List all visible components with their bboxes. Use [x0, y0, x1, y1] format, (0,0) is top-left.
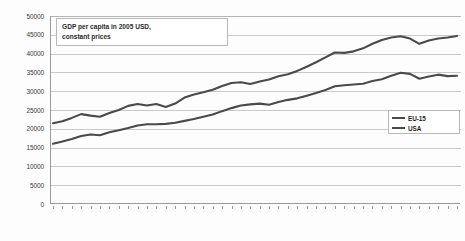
y-axis-tick-label: 30000	[0, 88, 44, 95]
x-axis-tick-mark	[316, 206, 317, 209]
x-axis-tick-mark	[81, 206, 82, 209]
y-axis-tick-label: 15000	[0, 144, 44, 151]
x-axis-tick-mark	[335, 206, 336, 209]
x-axis-tick-mark	[232, 206, 233, 209]
x-axis-tick-mark	[72, 206, 73, 209]
legend-item-usa[interactable]: USA	[392, 123, 456, 133]
x-axis-tick-mark	[91, 206, 92, 209]
y-axis-tick-label: 20000	[0, 125, 44, 132]
x-axis-tick-mark	[419, 206, 420, 209]
x-axis-tick-mark	[62, 206, 63, 209]
legend-swatch-icon-usa	[392, 127, 405, 130]
legend-swatch-icon-eu-15	[392, 117, 405, 120]
x-axis-tick-mark	[307, 206, 308, 209]
legend-label-usa: USA	[408, 125, 421, 132]
y-axis-tick-label: 0	[0, 201, 44, 208]
x-axis-tick-mark	[297, 206, 298, 209]
legend-label-eu-15: EU-15	[408, 115, 426, 122]
chart-title-line-2: constant prices	[62, 32, 222, 42]
y-axis-tick-label: 45000	[0, 31, 44, 38]
x-axis-tick-mark	[429, 206, 430, 209]
x-axis-tick-mark	[372, 206, 373, 209]
x-axis-tick-mark	[222, 206, 223, 209]
x-axis-tick-mark	[448, 206, 449, 209]
x-axis-tick-mark	[213, 206, 214, 209]
x-axis-tick-mark	[438, 206, 439, 209]
chart-title-box: GDP per capita in 2005 USD, constant pri…	[56, 18, 228, 46]
x-axis-tick-mark	[325, 206, 326, 209]
x-axis-tick-mark	[166, 206, 167, 209]
x-axis-labels: 1970197119721973197419751976197719781979…	[50, 206, 460, 241]
x-axis-tick-mark	[457, 206, 458, 209]
x-axis-tick-mark	[344, 206, 345, 209]
y-axis-tick-label: 35000	[0, 69, 44, 76]
y-axis-tick-label: 10000	[0, 163, 44, 170]
x-axis-tick-mark	[109, 206, 110, 209]
x-axis-tick-mark	[391, 206, 392, 209]
x-axis-tick-mark	[410, 206, 411, 209]
x-axis-tick-mark	[53, 206, 54, 209]
x-axis-tick-mark	[156, 206, 157, 209]
gdp-per-capita-line-chart: 5000045000400003500030000250002000015000…	[0, 0, 465, 241]
x-axis-tick-mark	[194, 206, 195, 209]
chart-title-line-1: GDP per capita in 2005 USD,	[62, 22, 222, 32]
x-axis-tick-mark	[119, 206, 120, 209]
y-axis-tick-label: 25000	[0, 107, 44, 114]
y-axis-tick-label: 5000	[0, 182, 44, 189]
x-axis-tick-mark	[354, 206, 355, 209]
x-axis-tick-mark	[401, 206, 402, 209]
x-axis-tick-mark	[128, 206, 129, 209]
x-axis-tick-mark	[288, 206, 289, 209]
x-axis-tick-mark	[278, 206, 279, 209]
y-axis-labels: 5000045000400003500030000250002000015000…	[0, 0, 48, 241]
x-axis-tick-mark	[185, 206, 186, 209]
x-axis-tick-mark	[382, 206, 383, 209]
legend-item-eu-15[interactable]: EU-15	[392, 113, 456, 123]
x-axis-tick-mark	[363, 206, 364, 209]
y-axis-tick-label: 50000	[0, 13, 44, 20]
x-axis-tick-mark	[175, 206, 176, 209]
chart-legend: EU-15 USA	[388, 110, 460, 134]
x-axis-tick-mark	[250, 206, 251, 209]
x-axis-tick-mark	[241, 206, 242, 209]
x-axis-tick-mark	[138, 206, 139, 209]
x-axis-tick-mark	[269, 206, 270, 209]
x-axis-tick-mark	[147, 206, 148, 209]
x-axis-tick-mark	[100, 206, 101, 209]
x-axis-tick-mark	[203, 206, 204, 209]
y-axis-tick-label: 40000	[0, 50, 44, 57]
x-axis-tick-mark	[260, 206, 261, 209]
